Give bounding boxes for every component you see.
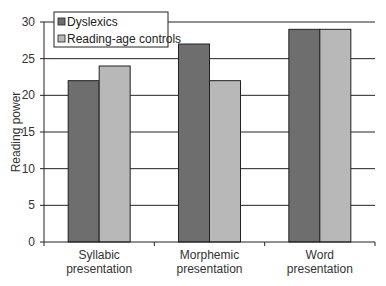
y-axis-title: Reading power: [9, 92, 23, 173]
y-tick-label: 10: [22, 162, 36, 176]
legend-swatch: [58, 18, 65, 25]
y-tick-label: 15: [22, 125, 36, 139]
bar: [99, 66, 130, 242]
legend-label: Reading-age controls: [67, 32, 181, 46]
legend-label: Dyslexics: [67, 15, 118, 29]
bar: [210, 81, 241, 242]
x-category-label: Word: [306, 248, 334, 262]
bar: [320, 29, 351, 242]
bar: [179, 44, 210, 242]
x-category-label: presentation: [66, 262, 132, 276]
x-category-label: Syllabic: [78, 248, 119, 262]
y-tick-label: 0: [28, 235, 35, 249]
y-tick-label: 30: [22, 15, 36, 29]
legend: DyslexicsReading-age controls: [54, 12, 181, 47]
x-category-label: presentation: [287, 262, 353, 276]
bar: [68, 81, 99, 242]
x-category-label: presentation: [176, 262, 242, 276]
legend-swatch: [58, 35, 65, 42]
y-tick-label: 25: [22, 52, 36, 66]
bar: [289, 29, 320, 242]
x-category-label: Morphemic: [180, 248, 239, 262]
y-tick-label: 5: [28, 198, 35, 212]
x-category-labels: SyllabicpresentationMorphemicpresentatio…: [66, 248, 353, 276]
bar-chart: 051015202530 SyllabicpresentationMorphem…: [0, 0, 386, 286]
bars: [68, 29, 351, 242]
y-tick-labels: 051015202530: [22, 15, 36, 249]
y-tick-label: 20: [22, 88, 36, 102]
